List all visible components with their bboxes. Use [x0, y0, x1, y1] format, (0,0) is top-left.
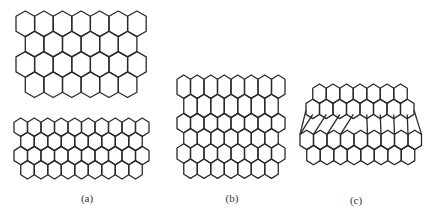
hexagon-cell: [401, 145, 415, 164]
hexagon-cell: [34, 161, 48, 179]
hexagon-cell: [25, 72, 44, 98]
hexagon-cell: [197, 159, 211, 178]
lattice-drawing: [0, 0, 437, 215]
hexagon-cell: [100, 72, 119, 98]
distorted-cell-edge: [394, 114, 395, 134]
hexagon-cell: [347, 145, 361, 164]
hexagon-cell: [75, 161, 89, 179]
hexagon-cell: [251, 159, 265, 178]
hexagon-cell: [81, 72, 100, 98]
hexagon-cell: [44, 72, 63, 98]
hexagon-cell: [334, 145, 348, 164]
hexagon-cell: [320, 99, 334, 118]
lattice-b: [177, 75, 285, 178]
lattice-a-top: [16, 11, 146, 98]
hexagon-cell: [184, 159, 198, 178]
hexagon-cell: [388, 145, 402, 164]
caption-b: (b): [226, 192, 239, 204]
distorted-cell-edge: [380, 114, 381, 134]
hexagon-cell: [374, 145, 388, 164]
lattice-a-bottom: [14, 118, 149, 179]
hexagon-cell: [238, 159, 252, 178]
hexagon-cell: [63, 72, 82, 98]
hexagon-cell: [307, 145, 321, 164]
hexagon-cell: [306, 99, 320, 118]
hexagon-cell: [88, 161, 102, 179]
caption-a: (a): [81, 192, 93, 204]
hexagon-lattice-figure: (a) (b) (c): [0, 0, 437, 215]
hexagon-cell: [333, 99, 347, 118]
hexagon-cell: [129, 161, 143, 179]
distorted-cell-edge: [407, 114, 408, 134]
hexagon-cell: [102, 161, 116, 179]
distorted-cell-edge: [367, 114, 368, 134]
hexagon-cell: [115, 161, 129, 179]
hexagon-cell: [211, 159, 225, 178]
hexagon-cell: [21, 161, 35, 179]
hexagon-cell: [347, 99, 361, 118]
hexagon-cell: [265, 159, 279, 178]
hexagon-cell: [61, 161, 75, 179]
lattice-c: [300, 84, 422, 165]
hexagon-cell: [224, 159, 238, 178]
hexagon-cell: [361, 145, 375, 164]
caption-c: (c): [350, 194, 362, 206]
hexagon-cell: [320, 145, 334, 164]
hexagon-cell: [48, 161, 62, 179]
hexagon-cell: [118, 72, 137, 98]
